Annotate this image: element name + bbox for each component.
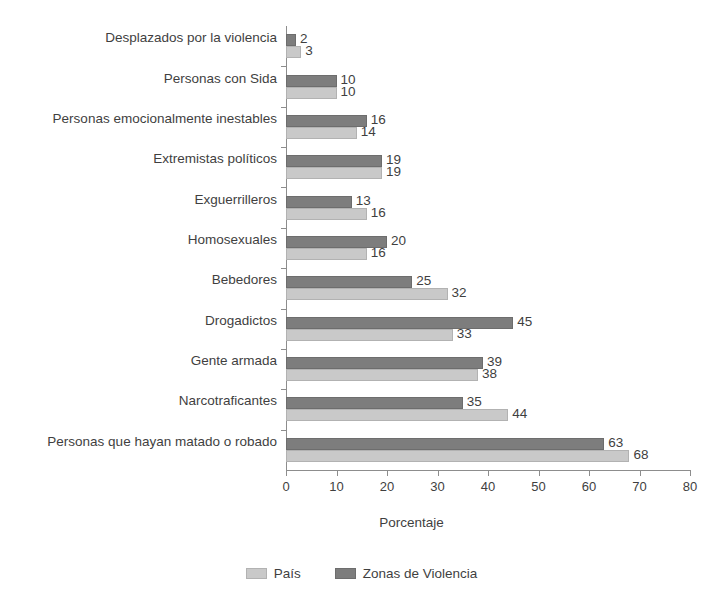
legend-label: País xyxy=(274,566,301,581)
category-label: Homosexuales xyxy=(0,232,277,247)
legend-item: País xyxy=(246,566,301,581)
x-axis-tick xyxy=(589,470,590,476)
x-axis-tick xyxy=(640,470,641,476)
category-label: Narcotraficantes xyxy=(0,393,277,408)
bar-value-label: 32 xyxy=(452,287,467,299)
y-axis-tick xyxy=(281,430,286,431)
plot-area: Desplazados por la violencia23Personas c… xyxy=(286,26,690,470)
bar-value-label: 63 xyxy=(608,437,623,449)
bar-zonas-de-violencia xyxy=(286,34,296,46)
bar-value-label: 44 xyxy=(512,408,527,420)
y-axis-tick xyxy=(281,309,286,310)
bar-zonas-de-violencia xyxy=(286,357,483,369)
chart-row: Personas con Sida1010 xyxy=(286,66,690,106)
chart-row: Personas emocionalmente inestables1614 xyxy=(286,107,690,147)
bar-value-label: 68 xyxy=(633,449,648,461)
chart-row: Drogadictos4533 xyxy=(286,309,690,349)
x-axis-tick-label: 0 xyxy=(282,479,289,494)
bar-zonas-de-violencia xyxy=(286,317,513,329)
category-label: Desplazados por la violencia xyxy=(0,30,277,45)
bar-chart: Desplazados por la violencia23Personas c… xyxy=(0,0,723,612)
legend-swatch-light xyxy=(246,568,267,579)
y-axis-tick xyxy=(281,349,286,350)
x-axis-tick-label: 50 xyxy=(531,479,545,494)
chart-row: Desplazados por la violencia23 xyxy=(286,26,690,66)
bar-value-label: 20 xyxy=(391,235,406,247)
chart-row: Gente armada3938 xyxy=(286,349,690,389)
x-axis-title-text: Porcentaje xyxy=(379,515,444,530)
bar-pais xyxy=(286,409,508,421)
bar-pais xyxy=(286,127,357,139)
y-axis-tick xyxy=(281,268,286,269)
bar-value-label: 13 xyxy=(356,195,371,207)
chart-row: Homosexuales2016 xyxy=(286,228,690,268)
bar-value-label: 14 xyxy=(361,126,376,138)
bar-zonas-de-violencia xyxy=(286,75,337,87)
y-axis-tick xyxy=(281,147,286,148)
bar-value-label: 45 xyxy=(517,316,532,328)
bar-zonas-de-violencia xyxy=(286,276,412,288)
bar-zonas-de-violencia xyxy=(286,438,604,450)
x-axis-tick xyxy=(337,470,338,476)
bar-pais xyxy=(286,167,382,179)
bar-pais xyxy=(286,329,453,341)
chart-row: Extremistas políticos1919 xyxy=(286,147,690,187)
x-axis-tick-label: 30 xyxy=(430,479,444,494)
legend-swatch-dark xyxy=(335,568,356,579)
bar-value-label: 3 xyxy=(305,45,313,57)
bar-pais xyxy=(286,248,367,260)
bar-pais xyxy=(286,87,337,99)
bar-value-label: 35 xyxy=(467,396,482,408)
x-axis-tick xyxy=(387,470,388,476)
legend-label: Zonas de Violencia xyxy=(363,566,478,581)
bar-value-label: 16 xyxy=(371,207,386,219)
bar-zonas-de-violencia xyxy=(286,196,352,208)
bar-zonas-de-violencia xyxy=(286,115,367,127)
x-axis-tick xyxy=(286,470,287,476)
x-axis-title: Porcentaje xyxy=(0,515,723,530)
bar-value-label: 25 xyxy=(416,275,431,287)
category-label: Personas que hayan matado o robado xyxy=(0,434,277,449)
x-axis-tick-label: 70 xyxy=(632,479,646,494)
bar-pais xyxy=(286,46,301,58)
chart-row: Narcotraficantes3544 xyxy=(286,389,690,429)
bar-zonas-de-violencia xyxy=(286,397,463,409)
y-axis-tick xyxy=(281,66,286,67)
category-label: Drogadictos xyxy=(0,313,277,328)
category-label: Personas con Sida xyxy=(0,71,277,86)
bar-value-label: 16 xyxy=(371,247,386,259)
chart-row: Exguerrilleros1316 xyxy=(286,187,690,227)
category-label: Personas emocionalmente inestables xyxy=(0,111,277,126)
x-axis-tick xyxy=(690,470,691,476)
bar-pais xyxy=(286,288,448,300)
x-axis-tick-label: 40 xyxy=(481,479,495,494)
x-axis-tick xyxy=(539,470,540,476)
bar-pais xyxy=(286,369,478,381)
bar-value-label: 38 xyxy=(482,368,497,380)
y-axis-tick xyxy=(281,107,286,108)
bar-pais xyxy=(286,208,367,220)
bar-value-label: 10 xyxy=(341,86,356,98)
category-label: Bebedores xyxy=(0,272,277,287)
chart-legend: PaísZonas de Violencia xyxy=(0,566,723,581)
x-axis-tick xyxy=(438,470,439,476)
y-axis-tick xyxy=(281,389,286,390)
bar-zonas-de-violencia xyxy=(286,155,382,167)
bar-value-label: 19 xyxy=(386,166,401,178)
category-label: Extremistas políticos xyxy=(0,151,277,166)
chart-row: Personas que hayan matado o robado6368 xyxy=(286,430,690,470)
legend-item: Zonas de Violencia xyxy=(335,566,478,581)
chart-row: Bebedores2532 xyxy=(286,268,690,308)
bar-pais xyxy=(286,450,629,462)
x-axis-tick-label: 80 xyxy=(683,479,697,494)
bar-value-label: 33 xyxy=(457,328,472,340)
x-axis-tick xyxy=(488,470,489,476)
y-axis-tick xyxy=(281,228,286,229)
x-axis-tick-label: 60 xyxy=(582,479,596,494)
x-axis-tick-label: 20 xyxy=(380,479,394,494)
x-axis-tick-label: 10 xyxy=(329,479,343,494)
category-label: Exguerrilleros xyxy=(0,192,277,207)
category-label: Gente armada xyxy=(0,353,277,368)
y-axis-tick xyxy=(281,187,286,188)
